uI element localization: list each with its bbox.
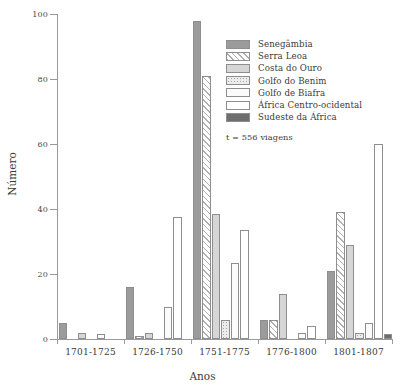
bar bbox=[346, 245, 355, 339]
bar bbox=[374, 144, 383, 339]
bar bbox=[240, 230, 249, 339]
bar bbox=[145, 333, 154, 340]
bar bbox=[173, 217, 182, 339]
legend-label: Serra Leoa bbox=[258, 51, 307, 61]
legend-label: Senegâmbia bbox=[258, 39, 313, 49]
bar bbox=[78, 333, 87, 340]
legend-item: África Centro-ocidental bbox=[226, 99, 401, 111]
y-tick-label: 100 bbox=[2, 10, 48, 19]
y-tick-mark bbox=[50, 339, 57, 340]
legend-annotation: t = 556 viagens bbox=[226, 132, 401, 142]
bar bbox=[279, 294, 288, 340]
bar bbox=[355, 333, 364, 340]
bar bbox=[212, 214, 221, 339]
legend-label: Sudeste da África bbox=[258, 112, 337, 122]
x-group-label: 1801-1807 bbox=[314, 347, 404, 357]
y-tick-mark bbox=[50, 274, 57, 275]
legend-label: Costa do Ouro bbox=[258, 63, 322, 73]
legend-swatch bbox=[226, 113, 250, 122]
y-tick-label: 20 bbox=[2, 270, 48, 279]
y-tick-mark bbox=[50, 79, 57, 80]
legend-label: Golfo do Benim bbox=[258, 76, 327, 86]
legend-item: Serra Leoa bbox=[226, 50, 401, 62]
legend-item: Golfo de Biafra bbox=[226, 87, 401, 99]
x-axis-line bbox=[57, 339, 393, 340]
legend-swatch bbox=[226, 40, 250, 49]
bar bbox=[135, 336, 144, 339]
x-tick-mark bbox=[191, 339, 192, 344]
bar bbox=[202, 76, 211, 339]
bar bbox=[221, 320, 230, 340]
bar bbox=[365, 323, 374, 339]
legend-swatch bbox=[226, 64, 250, 73]
legend-swatch bbox=[226, 52, 250, 61]
bar bbox=[59, 323, 68, 339]
bar bbox=[298, 333, 307, 340]
legend-label: Golfo de Biafra bbox=[258, 88, 325, 98]
legend-item: Sudeste da África bbox=[226, 111, 401, 123]
bar bbox=[164, 307, 173, 340]
y-tick-mark bbox=[50, 14, 57, 15]
bar bbox=[327, 271, 336, 339]
legend-label: África Centro-ocidental bbox=[258, 100, 362, 110]
legend-item: Golfo do Benim bbox=[226, 75, 401, 87]
x-tick-mark bbox=[325, 339, 326, 344]
legend-swatch bbox=[226, 88, 250, 97]
legend-item: Senegâmbia bbox=[226, 38, 401, 50]
legend-swatch bbox=[226, 76, 250, 85]
bar bbox=[269, 320, 278, 340]
y-tick-mark bbox=[50, 209, 57, 210]
bar-chart: 020406080100 1701-17251726-17501751-1775… bbox=[0, 0, 405, 391]
legend-item: Costa do Ouro bbox=[226, 62, 401, 74]
x-tick-mark bbox=[392, 339, 393, 344]
bar bbox=[336, 212, 345, 339]
y-axis-title: Número bbox=[6, 124, 18, 224]
bar bbox=[97, 334, 106, 339]
y-tick-label: 80 bbox=[2, 75, 48, 84]
x-tick-mark bbox=[124, 339, 125, 344]
bar bbox=[231, 263, 240, 339]
y-tick-mark bbox=[50, 144, 57, 145]
x-tick-mark bbox=[57, 339, 58, 344]
legend-swatch bbox=[226, 101, 250, 110]
x-axis-title: Anos bbox=[0, 370, 405, 382]
bar bbox=[384, 334, 393, 339]
bar bbox=[193, 21, 202, 340]
bar bbox=[126, 287, 135, 339]
bar bbox=[260, 320, 269, 340]
y-tick-label: 0 bbox=[2, 335, 48, 344]
x-tick-mark bbox=[258, 339, 259, 344]
legend: SenegâmbiaSerra LeoaCosta do OuroGolfo d… bbox=[226, 38, 401, 142]
bar bbox=[307, 326, 316, 339]
